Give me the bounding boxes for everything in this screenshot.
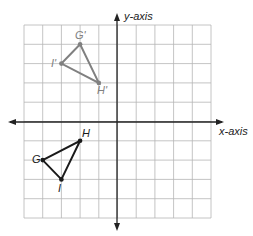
vertex-dot bbox=[78, 139, 83, 144]
y-axis-up-arrow-icon bbox=[114, 13, 120, 21]
vertex-dot bbox=[40, 158, 45, 163]
point-label-i: I bbox=[58, 182, 61, 194]
point-label-g-prime: G' bbox=[75, 29, 87, 41]
vertex-dot bbox=[59, 61, 64, 66]
vertex-dot bbox=[59, 177, 64, 182]
vertex-dot bbox=[78, 42, 83, 47]
y-axis-label: y-axis bbox=[123, 10, 153, 22]
x-axis-left-arrow-icon bbox=[8, 119, 16, 125]
point-label-g: G bbox=[32, 153, 41, 165]
point-label-h: H bbox=[82, 127, 90, 139]
x-axis-label: x-axis bbox=[218, 125, 248, 137]
coordinate-plane: y-axis x-axis G' H' I' G H I bbox=[0, 0, 253, 236]
point-label-i-prime: I' bbox=[51, 57, 57, 69]
y-axis-down-arrow-icon bbox=[114, 223, 120, 231]
x-axis bbox=[8, 119, 224, 125]
point-label-h-prime: H' bbox=[97, 84, 108, 96]
